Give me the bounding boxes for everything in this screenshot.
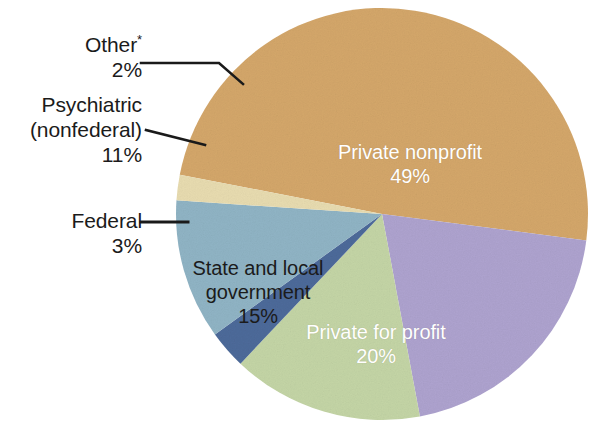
label-private-nonprofit-name: Private nonprofit [300,140,520,164]
label-state-local-percent: 15% [162,304,354,328]
label-federal: Federal 3% [24,208,142,258]
label-other-percent: 2% [38,57,142,82]
pie-chart: Other* 2% Psychiatric (nonfederal) 11% F… [0,0,602,437]
label-other-name: Other [85,33,137,56]
label-psychiatric-line2: (nonfederal) [6,117,142,142]
label-other: Other* 2% [38,32,142,82]
label-private-for-profit-percent: 20% [276,344,476,368]
label-federal-name: Federal [24,208,142,233]
label-state-local-government: State and local government 15% [162,256,354,328]
label-psychiatric-line1: Psychiatric [6,92,142,117]
label-federal-percent: 3% [24,233,142,258]
label-psychiatric: Psychiatric (nonfederal) 11% [6,92,142,167]
label-state-local-line2: government [162,280,354,304]
label-state-local-line1: State and local [162,256,354,280]
label-private-nonprofit-percent: 49% [300,164,520,188]
label-private-nonprofit: Private nonprofit 49% [300,140,520,188]
label-other-footnote-marker: * [137,32,142,47]
label-psychiatric-percent: 11% [6,142,142,167]
